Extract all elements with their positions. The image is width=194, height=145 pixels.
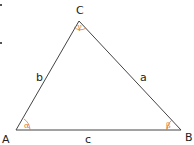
angle-gamma-label: γ bbox=[77, 22, 82, 31]
left-edge-marks bbox=[0, 4, 2, 44]
vertex-c-label: C bbox=[76, 4, 84, 17]
side-a-label: a bbox=[140, 71, 147, 84]
angle-beta-label: β bbox=[166, 121, 171, 130]
vertex-a-label: A bbox=[2, 133, 10, 145]
triangle-diagram: α β γ C A B b a c bbox=[0, 0, 194, 145]
side-c-label: c bbox=[85, 133, 91, 145]
vertex-b-label: B bbox=[185, 131, 193, 144]
angle-alpha-label: α bbox=[24, 121, 30, 130]
side-b-label: b bbox=[36, 71, 43, 84]
